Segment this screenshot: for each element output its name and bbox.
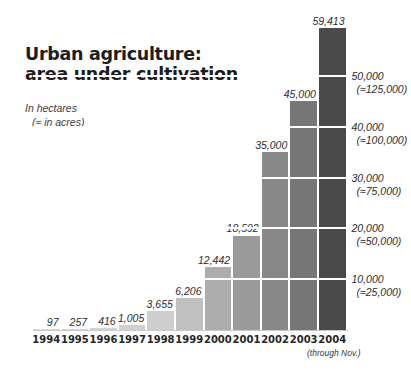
x-tick-1996: 1996 (88, 334, 119, 345)
bar-value-label-2000: 12,442 (163, 254, 231, 266)
x-axis-rule (33, 330, 348, 331)
x-axis-footnote: (through Nov.) (307, 348, 360, 358)
y-axis-label-main: 20,000 (352, 222, 384, 234)
y-axis-label-acres: (≈100,000) (352, 134, 408, 147)
bar-value-label-2004: 59,413 (277, 15, 345, 27)
y-axis-label-acres: (≈50,000) (352, 235, 402, 248)
bar-2000[interactable] (205, 267, 232, 330)
y-axis-label-40000: 40,000(≈100,000) (352, 121, 408, 147)
y-axis-label-main: 30,000 (352, 172, 384, 184)
y-axis-label-main: 40,000 (352, 121, 384, 133)
x-tick-1995: 1995 (60, 334, 91, 345)
gridline-10000 (33, 278, 346, 280)
chart-page: Urban agriculture: area under cultivatio… (0, 0, 411, 373)
x-tick-1999: 1999 (174, 334, 205, 345)
bar-2001[interactable] (233, 236, 260, 331)
x-tick-2003: 2003 (288, 334, 319, 345)
gridline-30000 (33, 177, 346, 179)
y-axis-label-30000: 30,000(≈75,000) (352, 172, 402, 198)
x-tick-2000: 2000 (203, 334, 234, 345)
y-axis-label-acres: (≈75,000) (352, 185, 402, 198)
gridline-20000 (33, 227, 346, 229)
x-tick-1998: 1998 (145, 334, 176, 345)
bar-1999[interactable] (176, 298, 203, 330)
x-tick-1997: 1997 (117, 334, 148, 345)
bar-2004[interactable] (319, 28, 346, 330)
gridline-40000 (33, 126, 346, 128)
bar-2002[interactable] (262, 152, 289, 330)
y-axis-label-acres: (≈25,000) (352, 286, 402, 299)
bar-value-label-1999: 6,206 (134, 285, 202, 297)
y-axis-label-50000: 50,000(≈125,000) (352, 70, 408, 96)
plot-area: 971994257199541619961,00519973,65519986,… (0, 0, 411, 373)
x-tick-1994: 1994 (31, 334, 62, 345)
y-axis-label-20000: 20,000(≈50,000) (352, 222, 402, 248)
x-tick-2004: 2004 (317, 334, 348, 345)
bar-value-label-2003: 45,000 (248, 88, 316, 100)
bar-1998[interactable] (147, 311, 174, 330)
y-axis-label-acres: (≈125,000) (352, 83, 408, 96)
bar-value-label-2002: 35,000 (220, 139, 288, 151)
x-tick-2001: 2001 (231, 334, 262, 345)
x-tick-2002: 2002 (260, 334, 291, 345)
bar-value-label-1998: 3,655 (105, 298, 173, 310)
bar-value-label-1997: 1,005 (77, 312, 145, 324)
y-axis-label-main: 10,000 (352, 273, 384, 285)
gridline-50000 (33, 75, 346, 77)
y-axis-label-10000: 10,000(≈25,000) (352, 273, 402, 299)
bar-2003[interactable] (290, 101, 317, 330)
y-axis-label-main: 50,000 (352, 70, 384, 82)
